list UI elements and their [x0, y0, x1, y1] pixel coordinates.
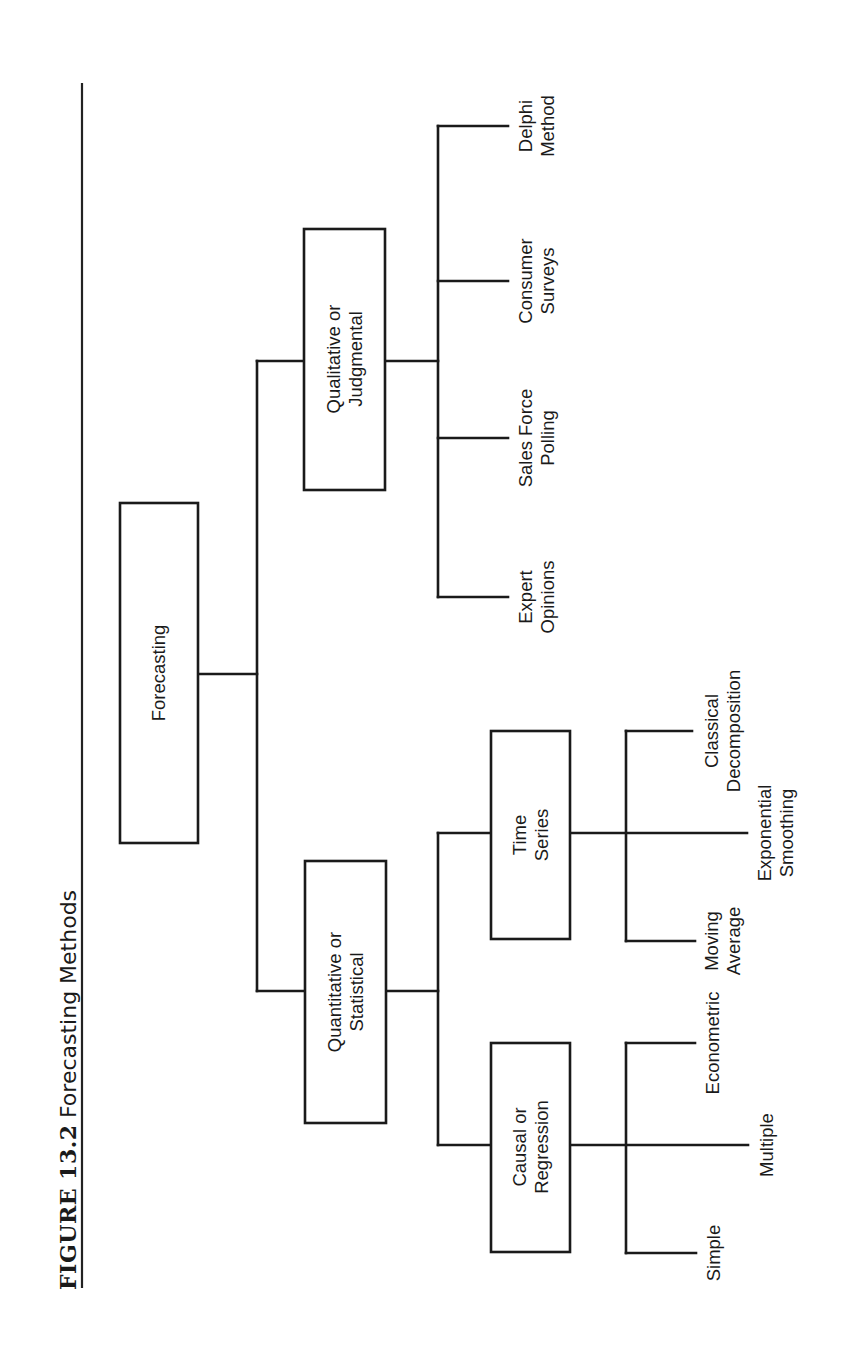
- leaf-expert-opinions: Expert Opinions: [515, 560, 558, 633]
- leaf-label-line2: Smoothing: [776, 789, 797, 877]
- node-label-line1: Quantitative or: [324, 932, 345, 1052]
- leaf-consumer-surveys: Consumer Surveys: [515, 238, 558, 323]
- leaf-label: Multiple: [756, 1113, 777, 1177]
- leaf-classical-decomposition: Classical Decomposition: [701, 670, 744, 792]
- leaf-label-line1: Delphi: [515, 100, 536, 152]
- leaf-multiple: Multiple: [756, 1113, 777, 1177]
- leaf-label-line2: Opinions: [537, 560, 558, 633]
- node-label-line2: Regression: [531, 1100, 552, 1194]
- leaf-label-line2: Polling: [537, 410, 558, 466]
- leaf-label: Simple: [703, 1225, 724, 1282]
- node-label-line2: Statistical: [346, 952, 367, 1031]
- leaf-label-line2: Decomposition: [723, 670, 744, 792]
- node-label-line1: Causal or: [509, 1107, 530, 1186]
- leaf-label-line1: Expert: [515, 570, 536, 623]
- node-forecasting: Forecasting: [120, 503, 198, 843]
- leaf-label-line2: Average: [723, 907, 744, 976]
- leaf-label: Econometric: [702, 992, 723, 1095]
- leaf-label-line2: Surveys: [537, 248, 558, 315]
- node-label: Forecasting: [148, 625, 169, 722]
- node-qualitative: Qualitative or Judgmental: [304, 229, 385, 490]
- leaf-label-line1: Exponential: [754, 785, 775, 882]
- node-causal-regression: Causal or Regression: [491, 1043, 570, 1252]
- node-label-line2: Series: [531, 809, 552, 861]
- figure-caption: FIGURE 13.2 Forecasting Methods: [55, 890, 81, 1290]
- leaf-simple: Simple: [703, 1225, 724, 1282]
- leaf-label-line1: Classical: [701, 694, 722, 768]
- leaf-exponential-smoothing: Exponential Smoothing: [754, 785, 797, 882]
- leaf-label-line2: Method: [537, 95, 558, 157]
- node-quantitative: Quantitative or Statistical: [305, 861, 386, 1123]
- leaf-sales-force-polling: Sales Force Polling: [515, 389, 558, 488]
- leaf-label-line1: Sales Force: [515, 389, 536, 488]
- leaf-moving-average: Moving Average: [701, 907, 744, 976]
- leaf-label-line1: Consumer: [515, 238, 536, 323]
- connectors: [198, 126, 748, 1253]
- leaf-econometric: Econometric: [702, 992, 723, 1095]
- figure-number: FIGURE 13.2: [55, 1124, 81, 1290]
- forecasting-methods-diagram: FIGURE 13.2 Forecasting Methods: [0, 0, 844, 1346]
- node-label-line2: Judgmental: [345, 311, 366, 407]
- node-label-line1: Qualitative or: [323, 305, 344, 414]
- figure-title: Forecasting Methods: [56, 890, 81, 1118]
- leaf-delphi-method: Delphi Method: [515, 95, 558, 157]
- node-label-line1: Time: [509, 815, 530, 855]
- node-time-series: Time Series: [491, 731, 570, 939]
- leaf-label-line1: Moving: [701, 911, 722, 971]
